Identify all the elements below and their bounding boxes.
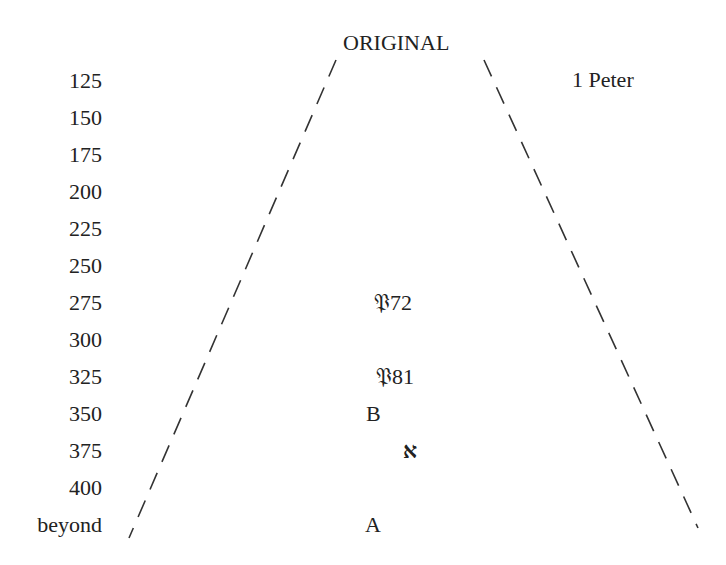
manuscript-p72: 𝔓72 — [374, 290, 412, 316]
date-tick: 300 — [69, 327, 102, 353]
left-dashed-boundary — [129, 60, 336, 538]
date-tick: 150 — [69, 105, 102, 131]
right-dashed-boundary — [484, 60, 698, 528]
original-label: ORIGINAL — [343, 30, 449, 56]
date-tick: 375 — [69, 438, 102, 464]
date-tick: 400 — [69, 475, 102, 501]
book-label: 1 Peter — [572, 67, 634, 93]
date-tick: 200 — [69, 179, 102, 205]
manuscript-b: B — [366, 401, 381, 427]
date-tick: 350 — [69, 401, 102, 427]
date-tick: 175 — [69, 142, 102, 168]
date-tick: 275 — [69, 290, 102, 316]
date-tick: 225 — [69, 216, 102, 242]
date-tick: 325 — [69, 364, 102, 390]
date-tick: beyond — [37, 512, 102, 538]
date-tick: 250 — [69, 253, 102, 279]
date-tick: 125 — [69, 68, 102, 94]
manuscript-a: A — [365, 512, 381, 538]
manuscript-aleph: א — [403, 438, 417, 464]
manuscript-p81: 𝔓81 — [376, 364, 414, 390]
